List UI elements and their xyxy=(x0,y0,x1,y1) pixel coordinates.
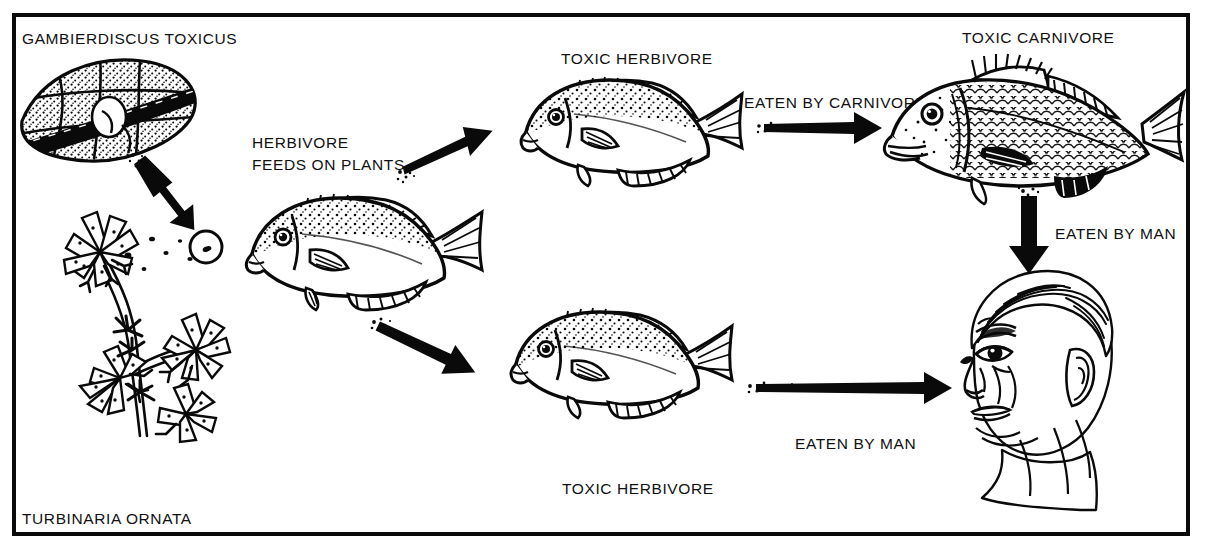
alga-whorl-mid-right xyxy=(160,314,230,386)
toxic-herbivore-bottom-illustration xyxy=(500,300,745,422)
alga-whorl-top xyxy=(64,212,138,292)
arrow-to-toxic-herbivore-top xyxy=(398,128,528,190)
alga-whorl-bottom-right xyxy=(156,384,216,442)
turbinaria-ornata-illustration xyxy=(44,200,249,440)
ciguatera-food-chain-diagram: GAMBIERDISCUS TOXICUS HERBIVORE FEEDS ON… xyxy=(0,0,1205,556)
label-eaten-by-man-right: EATEN BY MAN xyxy=(1055,223,1176,245)
toxic-carnivore-illustration xyxy=(876,52,1186,204)
herbivore-fish-illustration xyxy=(236,186,498,311)
label-gambierdiscus-toxicus: GAMBIERDISCUS TOXICUS xyxy=(22,28,237,50)
label-turbinaria-ornata: TURBINARIA ORNATA xyxy=(22,508,192,530)
arrow-herbivore-to-man xyxy=(748,370,963,410)
label-toxic-herbivore-top: TOXIC HERBIVORE xyxy=(561,48,713,70)
label-eaten-by-man-bottom: EATEN BY MAN xyxy=(795,433,916,455)
toxic-herbivore-top-illustration xyxy=(512,70,757,188)
man-head-illustration xyxy=(958,262,1184,512)
arrow-to-toxic-herbivore-bottom xyxy=(370,316,512,398)
label-toxic-herbivore-bottom: TOXIC HERBIVORE xyxy=(562,478,714,500)
label-herbivore-feeds-on-plants: HERBIVORE FEEDS ON PLANTS xyxy=(252,132,405,177)
label-toxic-carnivore: TOXIC CARNIVORE xyxy=(962,27,1115,49)
